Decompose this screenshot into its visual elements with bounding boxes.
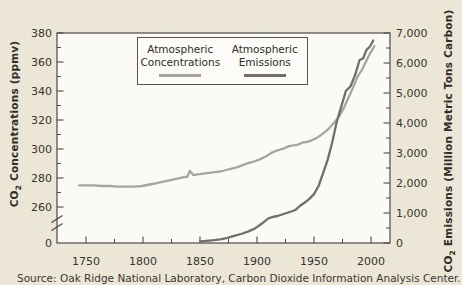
y-axis-label-right-prefix: CO bbox=[442, 255, 454, 272]
legend-label-line2: Concentrations bbox=[140, 56, 220, 68]
y-right-tick-label: 5,000 bbox=[396, 87, 428, 100]
x-tick-label: 2000 bbox=[357, 255, 385, 268]
y-right-tick-label: 6,000 bbox=[396, 57, 428, 70]
y-left-tick-label: 360 bbox=[31, 56, 52, 69]
legend-label-line2: Emissions bbox=[239, 56, 291, 68]
x-tick-label: 1950 bbox=[300, 255, 328, 268]
y-axis-label-left-prefix: CO bbox=[8, 190, 20, 207]
legend-swatch bbox=[159, 74, 201, 77]
y-axis-label-left-subscript: 2 bbox=[14, 185, 23, 190]
x-tick-label: 1750 bbox=[72, 255, 100, 268]
figure-canvas: 38036034032030028026007,0006,0005,0004,0… bbox=[0, 0, 462, 285]
legend-label-line1: Atmospheric bbox=[147, 43, 213, 55]
y-left-tick-label: 300 bbox=[31, 143, 52, 156]
y-right-tick-label: 2,000 bbox=[396, 177, 428, 190]
y-axis-label-left-rest: Concentrations (ppmv) bbox=[8, 41, 20, 185]
source-attribution: Source: Oak Ridge National Laboratory, C… bbox=[17, 272, 461, 284]
y-right-tick-label: 7,000 bbox=[396, 27, 428, 40]
y-left-tick-label: 260 bbox=[31, 201, 52, 214]
y-right-tick-label: 4,000 bbox=[396, 117, 428, 130]
y-right-tick-label: 3,000 bbox=[396, 147, 428, 160]
legend-box: Atmospheric Concentrations Atmospheric E… bbox=[137, 37, 308, 85]
x-tick-label: 1850 bbox=[186, 255, 214, 268]
y-axis-label-right-rest: Emissions (Million Metric Tons Carbon) bbox=[442, 10, 454, 250]
y-left-tick-label: 340 bbox=[31, 85, 52, 98]
y-axis-label-right: CO2 Emissions (Million Metric Tons Carbo… bbox=[442, 10, 457, 273]
x-tick-label: 1900 bbox=[243, 255, 271, 268]
y-right-tick-label: 1,000 bbox=[396, 207, 428, 220]
y-left-tick-label: 320 bbox=[31, 114, 52, 127]
x-tick-label: 1800 bbox=[129, 255, 157, 268]
y-left-tick-label: 280 bbox=[31, 172, 52, 185]
y-axis-label-left: CO2 Concentrations (ppmv) bbox=[8, 41, 23, 208]
y-right-tick-label: 0 bbox=[396, 237, 403, 250]
y-left-tick-label: 380 bbox=[31, 27, 52, 40]
legend-item-concentrations: Atmospheric Concentrations bbox=[138, 38, 223, 84]
y-axis-label-right-subscript: 2 bbox=[448, 250, 457, 255]
legend-swatch bbox=[244, 74, 286, 77]
y-left-zero-label: 0 bbox=[45, 237, 52, 250]
legend-label-line1: Atmospheric bbox=[232, 43, 298, 55]
legend-item-emissions: Atmospheric Emissions bbox=[223, 38, 308, 84]
